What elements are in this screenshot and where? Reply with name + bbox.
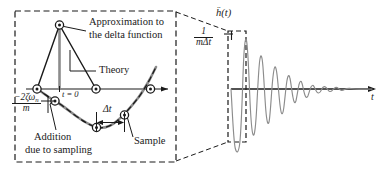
label-approximation-line2: the delta function — [89, 30, 162, 41]
label-y-axis-fraction: 1 mΔt — [194, 27, 213, 47]
y-axis-numerator: 1 — [194, 27, 213, 37]
label-theory: Theory — [99, 65, 129, 76]
figure-canvas: Approximation to the delta function Theo… — [0, 0, 388, 173]
label-sample: Sample — [134, 136, 166, 147]
label-signal: ··h(t) — [216, 8, 231, 19]
y-axis-denominator: mΔt — [194, 37, 213, 48]
double-dot-accent: ·· — [217, 3, 221, 12]
damped-impulse-response — [231, 39, 372, 152]
leader-theory — [70, 50, 96, 71]
label-addition-line1: Addition — [34, 132, 71, 143]
main-burst-frame — [228, 31, 246, 142]
amplitude-denominator: m — [12, 103, 41, 114]
label-delta-t: Δt — [103, 104, 112, 114]
amplitude-numerator: −2ζωn — [12, 93, 41, 103]
signal-accented-base: ··h — [216, 8, 221, 19]
label-x-axis: t — [371, 92, 374, 102]
label-amplitude-fraction: −2ζωn m — [12, 93, 41, 114]
leader-addition — [50, 102, 56, 130]
leader-approximation — [64, 27, 86, 32]
label-time-origin: t = 0 — [62, 90, 79, 99]
label-approximation-line1: Approximation to — [89, 17, 164, 28]
signal-argument: (t) — [221, 7, 231, 18]
leader-sample — [128, 118, 134, 137]
delta-approximation-triangle — [37, 25, 96, 89]
label-addition-line2: due to sampling — [25, 145, 92, 156]
